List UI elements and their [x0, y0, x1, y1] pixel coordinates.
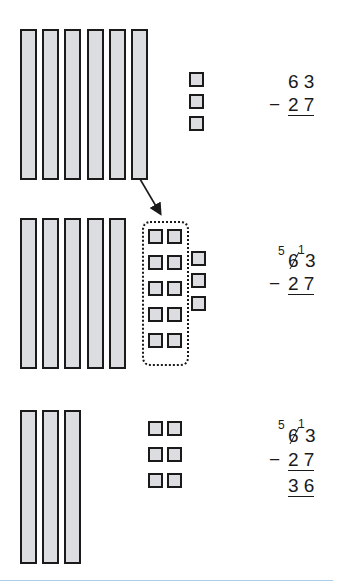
tens-rod — [64, 218, 81, 369]
step2-borrow-ones: 1 — [298, 244, 305, 256]
ones-unit — [191, 273, 206, 288]
step2-crossed-tens: 6 — [288, 251, 299, 270]
ones-unit — [167, 307, 182, 322]
tens-rod — [64, 410, 81, 564]
step3-borrow-ones: 1 — [298, 418, 305, 430]
ones-unit — [148, 333, 163, 348]
divider-line — [0, 580, 333, 581]
tens-rod — [42, 410, 59, 564]
tens-rod — [42, 218, 59, 369]
ones-unit — [148, 255, 163, 270]
ones-unit — [148, 473, 163, 488]
ones-unit — [167, 421, 182, 436]
step3-borrow-tens: 5 — [278, 419, 285, 431]
ones-unit — [167, 229, 182, 244]
ones-unit — [148, 281, 163, 296]
tens-rod — [20, 410, 37, 564]
ones-unit — [167, 255, 182, 270]
ones-unit — [191, 251, 206, 266]
ones-unit — [167, 333, 182, 348]
ones-unit — [148, 447, 163, 462]
ones-unit — [167, 447, 182, 462]
step2-borrow-tens: 5 — [278, 245, 285, 257]
ones-unit — [167, 473, 182, 488]
step3-result: 3 6 — [288, 476, 314, 497]
step3-crossed-tens: 6 — [288, 426, 299, 445]
ones-unit — [167, 281, 182, 296]
tens-rod — [20, 218, 37, 369]
tens-rod — [109, 218, 126, 369]
step2-operator: − — [269, 274, 280, 293]
ones-unit — [148, 307, 163, 322]
step3-ones-digit: 3 — [305, 426, 316, 445]
step2-ones-digit: 3 — [305, 251, 316, 270]
step3-bottom-number: 2 7 — [288, 450, 314, 471]
step3-operator: − — [269, 450, 280, 469]
ones-unit — [148, 421, 163, 436]
tens-rod — [87, 218, 104, 369]
step2-bottom-number: 2 7 — [288, 274, 314, 295]
ones-unit — [148, 229, 163, 244]
ones-unit — [191, 296, 206, 311]
